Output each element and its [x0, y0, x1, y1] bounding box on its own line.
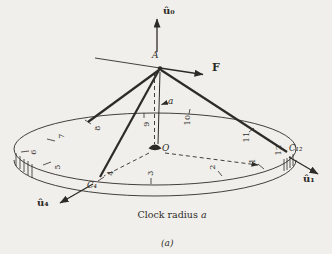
- clock-number-1: 1: [248, 158, 257, 164]
- apex-a-joint: [158, 66, 162, 70]
- string-a-to-c12: [161, 70, 287, 152]
- rod-a-to-o: [158, 72, 160, 144]
- force-line-of-action: [95, 58, 160, 68]
- height-a-label: a: [168, 97, 173, 106]
- clock-number-11: 11: [242, 131, 251, 142]
- dashed-radius-o-to-rim-arrow: [165, 153, 258, 165]
- subfigure-label: (a): [161, 238, 173, 248]
- figure-caption: Clock radius a: [98, 209, 246, 220]
- clock-number-10: 10: [183, 114, 192, 125]
- attachment-c12-label: C₁₂: [289, 144, 302, 153]
- unit-vector-u4-label: û₄: [37, 198, 49, 208]
- clock-number-7: 7: [57, 133, 66, 139]
- height-a-leader-arrow: [162, 103, 168, 105]
- clock-number-8: 8: [93, 125, 102, 131]
- caption-text: Clock radius: [137, 209, 200, 220]
- clock-number-3: 3: [146, 170, 155, 176]
- force-f-label: F: [212, 62, 220, 73]
- unit-vector-u1-label: û₁: [303, 174, 315, 184]
- center-o-label: O: [162, 144, 169, 153]
- center-o-support: [149, 145, 162, 151]
- unit-vector-up-label: û₀: [163, 6, 175, 16]
- clock-number-6: 6: [29, 149, 38, 155]
- clock-number-9: 9: [142, 121, 151, 127]
- clock-number-4: 4: [106, 170, 115, 176]
- clock-number-2: 2: [208, 164, 217, 170]
- clock-number-5: 5: [53, 164, 62, 170]
- caption-radius-var: a: [201, 209, 207, 220]
- point-a-label: A: [152, 51, 159, 60]
- clock-suspension-diagram: û₀ A F a O C₄ C₁₂ û₁ û₄ 1 2 3 4 5 6 7 8 …: [0, 0, 332, 254]
- attachment-c4-label: C₄: [87, 181, 97, 190]
- clock-number-12: 12: [274, 144, 283, 155]
